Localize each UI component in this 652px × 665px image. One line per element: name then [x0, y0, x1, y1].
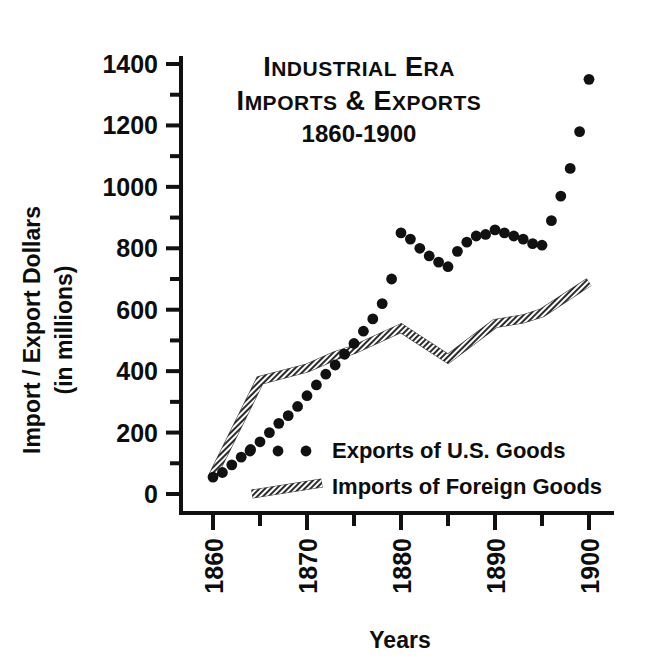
data-point [358, 326, 369, 337]
chart-title-line-1: INDUSTRIAL ERA [263, 52, 455, 82]
y-axis-tick-labels: 0200400600800100012001400 [102, 50, 158, 508]
data-point [217, 467, 228, 478]
y-axis-ticks [166, 64, 181, 494]
data-point [414, 243, 425, 254]
x-axis-ticks [213, 513, 589, 530]
legend-marker-imports [252, 483, 322, 494]
data-point [396, 228, 407, 239]
data-point [330, 360, 341, 371]
data-point [349, 338, 360, 349]
x-axis-title: Years [369, 627, 430, 653]
data-point [339, 349, 350, 360]
data-point [574, 126, 585, 137]
industrial-era-trade-chart: INDUSTRIAL ERA IMPORTS & EXPORTS 1860-19… [0, 0, 652, 665]
chart-title-line-2: IMPORTS & EXPORTS [237, 86, 482, 116]
y-axis-title: Import / Export Dollars (in millions) [19, 206, 77, 454]
x-tick-label: 1880 [388, 538, 416, 594]
x-tick-label: 1900 [576, 538, 604, 594]
data-point [555, 191, 566, 202]
data-point [264, 427, 275, 438]
y-tick-label: 200 [116, 419, 158, 447]
data-point [320, 369, 331, 380]
data-point [546, 215, 557, 226]
y-tick-label: 400 [116, 357, 158, 385]
data-point [302, 390, 313, 401]
chart-title-line-3: 1860-1900 [302, 120, 417, 147]
data-point [386, 274, 397, 285]
x-tick-label: 1860 [200, 538, 228, 594]
x-axis-tick-labels: 18601870188018901900 [200, 538, 604, 594]
data-point [584, 74, 595, 85]
x-tick-label: 1870 [294, 538, 322, 594]
data-point [292, 401, 303, 412]
x-tick-label: 1890 [482, 538, 510, 594]
data-point [480, 229, 491, 240]
legend-label-imports: Imports of Foreign Goods [332, 474, 602, 499]
data-point [236, 452, 247, 463]
y-tick-label: 0 [144, 480, 158, 508]
y-tick-label: 1200 [102, 111, 158, 139]
data-point [452, 246, 463, 257]
data-point [311, 380, 322, 391]
y-tick-label: 800 [116, 234, 158, 262]
data-point [433, 257, 444, 268]
y-axis-title-line-1: Import / Export Dollars [19, 206, 45, 454]
data-point [443, 261, 454, 272]
data-point [527, 238, 538, 249]
data-point [518, 234, 529, 245]
data-point [461, 237, 472, 248]
data-point [226, 459, 237, 470]
data-point [499, 228, 510, 239]
data-point [273, 418, 284, 429]
y-axis-title-line-2: (in millions) [51, 265, 77, 394]
data-point [367, 314, 378, 325]
data-point [405, 234, 416, 245]
chart-title: INDUSTRIAL ERA IMPORTS & EXPORTS 1860-19… [237, 52, 482, 147]
data-point [377, 298, 388, 309]
y-tick-label: 1000 [102, 173, 158, 201]
chart-figure: INDUSTRIAL ERA IMPORTS & EXPORTS 1860-19… [0, 0, 652, 665]
data-point [471, 231, 482, 242]
y-tick-label: 1400 [102, 50, 158, 78]
data-point [508, 231, 519, 242]
data-point [537, 240, 548, 251]
data-point [283, 410, 294, 421]
y-tick-label: 600 [116, 296, 158, 324]
data-point [424, 251, 435, 262]
legend-label-exports: Exports of U.S. Goods [332, 438, 565, 463]
data-point [490, 224, 501, 235]
data-point [255, 436, 266, 447]
data-point [208, 472, 219, 483]
chart-legend: Exports of U.S. Goods Imports of Foreign… [245, 438, 603, 499]
data-point [565, 163, 576, 174]
